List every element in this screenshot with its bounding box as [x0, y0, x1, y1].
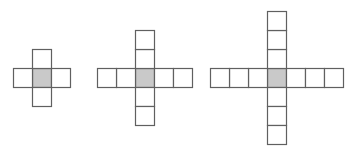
arm-cell — [325, 69, 344, 88]
cross-figure-3 — [0, 0, 364, 157]
arm-cell — [268, 31, 287, 50]
arm-cell — [268, 12, 287, 31]
arm-cell — [287, 69, 306, 88]
arm-cell — [268, 126, 287, 145]
arm-cell — [306, 69, 325, 88]
arm-cell — [268, 88, 287, 107]
arm-cell — [268, 107, 287, 126]
figure-canvas — [0, 0, 364, 157]
arm-cell — [230, 69, 249, 88]
center-shaded-cell — [268, 69, 287, 88]
arm-cell — [268, 50, 287, 69]
cross-3-svg — [0, 0, 364, 157]
arm-cell — [211, 69, 230, 88]
arm-cell — [249, 69, 268, 88]
